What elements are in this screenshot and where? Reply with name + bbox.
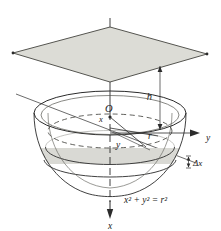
equation-label: x² + y² = r² (123, 195, 167, 205)
axis-label-x-bottom: x (107, 221, 113, 231)
axis-label-y: y (205, 133, 211, 143)
dx-arrow-down (187, 164, 191, 168)
axis-label-x-origin: x (98, 114, 103, 124)
height-indicator: h (147, 66, 163, 130)
axis-arrow-x-down (107, 209, 113, 219)
height-label: h (147, 91, 152, 102)
horizontal-plane (13, 27, 207, 82)
geometry-figure: h (0, 0, 221, 230)
slab-thickness-indicator: Δx (186, 156, 202, 168)
radius-label-r: r (148, 131, 152, 141)
origin-label: O (105, 103, 113, 114)
slab-thickness-label: Δx (192, 158, 202, 168)
plane-vertex-left (12, 52, 15, 55)
y-axis-arrowhead (190, 130, 200, 137)
origin-dot (108, 115, 111, 118)
radius-label-y: y (115, 140, 121, 150)
dx-arrow-up (187, 157, 191, 161)
plane-vertex-right (206, 53, 209, 56)
